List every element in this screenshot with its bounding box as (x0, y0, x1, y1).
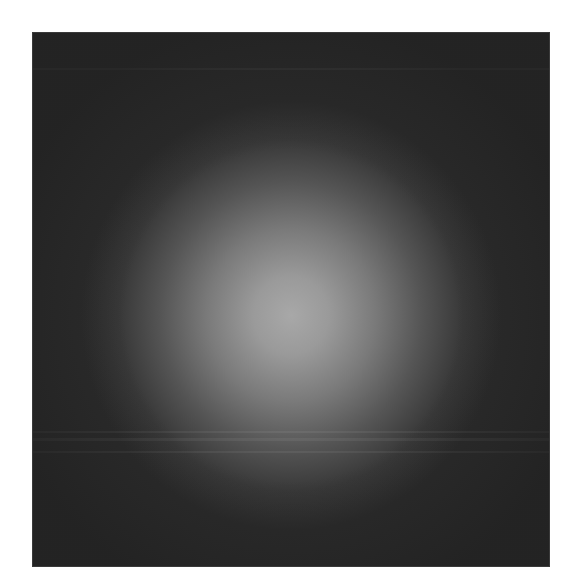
scanline-artifact (33, 68, 549, 70)
scanline-artifact (33, 451, 549, 453)
scanline-artifact (33, 431, 549, 433)
scanline-artifact (33, 438, 549, 441)
dark-square-with-glow (33, 33, 549, 566)
